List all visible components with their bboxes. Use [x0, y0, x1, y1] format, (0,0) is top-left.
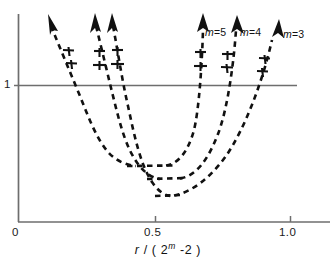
- series-m4-error-bars: [93, 48, 233, 73]
- y-tick-label-1: 1: [4, 78, 11, 90]
- series-m5-left-arrowhead-icon: [48, 14, 58, 35]
- figure-panel: 1 0 0.5 1.0 m=5 m=4 m=3 r / ( 2m -2 ): [0, 0, 336, 274]
- series-m5-right-branch: [166, 30, 203, 166]
- series-label-m5-symbol: m: [205, 26, 214, 38]
- series-m3-left-branch: [113, 26, 170, 196]
- series-m3-errorbar-stem-c: [265, 55, 266, 64]
- x-axis-title-exponent: m: [168, 241, 176, 251]
- series-m4-errorbar-stem-d: [227, 64, 228, 73]
- series-m3-error-bars: [111, 47, 270, 77]
- series-label-m4: m=4: [240, 26, 261, 38]
- series-m3: [113, 26, 272, 196]
- series-m5-errorbar-stem-b: [71, 60, 72, 69]
- x-tick-label-0: 0: [12, 226, 19, 238]
- series-label-m3-symbol: m: [283, 28, 292, 40]
- series-m5-error-bars: [63, 47, 207, 71]
- x-tick-label-1.0: 1.0: [279, 226, 296, 238]
- series-m3-errorbar-stem-d: [262, 68, 263, 77]
- x-axis-title-open: / ( 2: [140, 243, 169, 257]
- x-axis-title: r / ( 2m -2 ): [0, 243, 336, 257]
- series-label-m5-value: =5: [214, 26, 226, 38]
- series-label-m4-symbol: m: [240, 26, 249, 38]
- series-m5-errorbar-stem-a: [69, 47, 70, 56]
- series-m3-right-branch: [174, 40, 272, 196]
- x-tick-label-0.5: 0.5: [144, 226, 161, 238]
- series-label-m3-value: =3: [292, 28, 304, 40]
- series-m5-left-branch: [51, 26, 136, 166]
- x-axis-ticks: [156, 216, 291, 222]
- axis-lines: [18, 14, 330, 222]
- x-axis-title-close: -2 ): [176, 243, 201, 257]
- series-label-m4-value: =4: [249, 26, 261, 38]
- series-label-m5: m=5: [205, 26, 226, 38]
- series-m4-left-branch: [96, 26, 160, 179]
- series-m5-arrowheads: [48, 13, 209, 35]
- series-m4-left-arrowhead-icon: [90, 13, 101, 33]
- series-label-m3: m=3: [283, 28, 304, 40]
